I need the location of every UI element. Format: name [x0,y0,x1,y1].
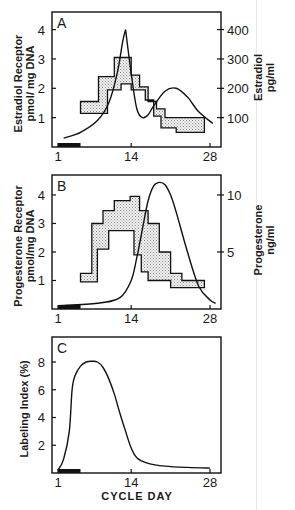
y2-tick-label: 400 [227,23,249,38]
x-tick-label: 1 [54,311,61,326]
y-tick-label: 2 [38,438,45,453]
menses-bar [58,469,81,473]
y-axis-title: Estradiol Receptor [12,34,24,133]
y-tick-label: 8 [38,355,45,370]
y2-axis-units: pg/ml [264,63,276,92]
x-tick-label: 28 [203,475,217,490]
x-tick-label: 14 [124,311,138,326]
y2-axis-units: ng/ml [264,225,276,254]
y-tick-label: 2 [38,81,45,96]
panel-c: 114282468Labeling Index (%)C [18,337,221,490]
y-tick-label: 6 [38,383,45,398]
y-tick-label: 3 [38,52,45,67]
y2-axis-title: Estradiol [252,54,264,101]
y-tick-label: 1 [38,273,45,288]
x-tick-label: 1 [54,475,61,490]
menses-bar [58,143,81,147]
panel-label: A [57,15,67,31]
x-tick-label: 28 [203,149,217,164]
panel-a: 114281234100200300400Estradiolpg/mlEstra… [12,12,276,164]
panel-label: B [57,178,66,194]
panel-label: C [57,340,67,356]
y-tick-label: 3 [38,216,45,231]
y2-tick-label: 100 [227,111,249,126]
y2-tick-label: 10 [227,188,241,203]
y2-tick-label: 5 [227,245,234,260]
y2-tick-label: 300 [227,52,249,67]
x-tick-label: 14 [124,149,138,164]
y-tick-label: 4 [38,410,45,425]
y-tick-label: 4 [38,188,45,203]
y-axis-units: pmol/mg DNA [24,210,36,283]
x-tick-label: 28 [203,311,217,326]
x-axis-title: CYCLE DAY [101,490,173,502]
plot-frame [52,337,221,473]
figure: 114281234100200300400Estradiolpg/mlEstra… [0,0,295,510]
y-tick-label: 4 [38,23,45,38]
y-axis-title: Labeling Index (%) [18,360,30,458]
x-tick-label: 1 [54,149,61,164]
y2-axis-title: Progesterone [252,205,264,276]
x-tick-label: 14 [124,475,138,490]
y-axis-title: Progesterone Receptor [12,184,24,306]
y-tick-label: 1 [38,111,45,126]
y2-tick-label: 200 [227,81,249,96]
menses-bar [58,305,81,309]
panel-b: 114281234510Progesteroneng/mlProgesteron… [12,175,276,326]
hormone-curve [58,361,210,470]
y-axis-units: pmol/ mg DNA [24,46,36,122]
y-tick-label: 2 [38,245,45,260]
receptor-range-band [81,196,205,287]
